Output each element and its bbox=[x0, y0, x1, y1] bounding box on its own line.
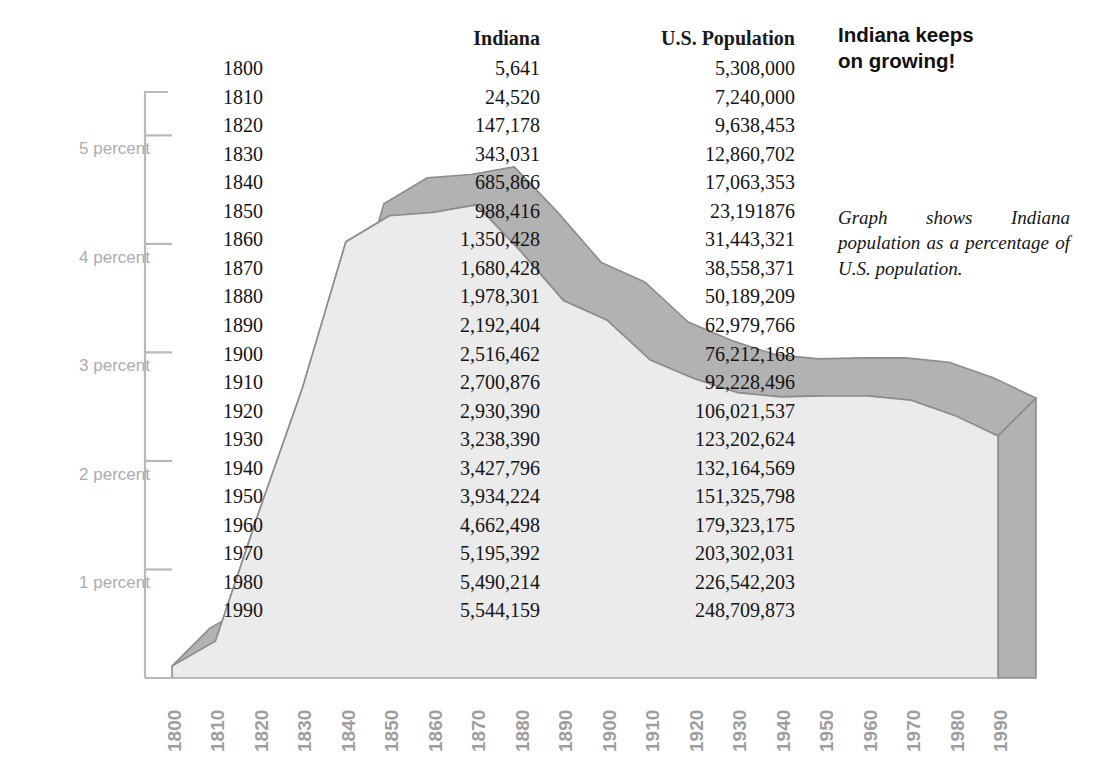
cell-us-population: 23,191876 bbox=[560, 200, 795, 223]
cell-year: 1940 bbox=[180, 457, 306, 480]
cell-indiana-population: 3,427,796 bbox=[290, 457, 540, 480]
x-axis-label-1990: 1990 bbox=[990, 710, 1012, 752]
cell-us-population: 17,063,353 bbox=[560, 171, 795, 194]
table-row: 19002,516,46276,212,168 bbox=[0, 343, 1114, 371]
cell-year: 1830 bbox=[180, 143, 306, 166]
table-row: 1840685,86617,063,353 bbox=[0, 171, 1114, 199]
cell-us-population: 62,979,766 bbox=[560, 314, 795, 337]
table-row: 19202,930,390106,021,537 bbox=[0, 400, 1114, 428]
table-row: 18902,192,40462,979,766 bbox=[0, 314, 1114, 342]
cell-us-population: 151,325,798 bbox=[560, 485, 795, 508]
x-axis-label-1860: 1860 bbox=[425, 710, 447, 752]
cell-year: 1920 bbox=[180, 400, 306, 423]
cell-us-population: 92,228,496 bbox=[560, 371, 795, 394]
cell-indiana-population: 1,680,428 bbox=[290, 257, 540, 280]
cell-us-population: 248,709,873 bbox=[560, 599, 795, 622]
table-row: 181024,5207,240,000 bbox=[0, 86, 1114, 114]
cell-us-population: 38,558,371 bbox=[560, 257, 795, 280]
x-axis-label-1830: 1830 bbox=[294, 710, 316, 752]
table-row: 18801,978,30150,189,209 bbox=[0, 285, 1114, 313]
cell-us-population: 31,443,321 bbox=[560, 228, 795, 251]
x-axis-label-1920: 1920 bbox=[686, 710, 708, 752]
cell-year: 1840 bbox=[180, 171, 306, 194]
cell-indiana-population: 5,641 bbox=[290, 57, 540, 80]
cell-indiana-population: 2,192,404 bbox=[290, 314, 540, 337]
x-axis-label-1800: 1800 bbox=[164, 710, 186, 752]
cell-indiana-population: 2,516,462 bbox=[290, 343, 540, 366]
cell-year: 1930 bbox=[180, 428, 306, 451]
table-row: 1820147,1789,638,453 bbox=[0, 114, 1114, 142]
table-row: 19303,238,390123,202,624 bbox=[0, 428, 1114, 456]
cell-indiana-population: 24,520 bbox=[290, 86, 540, 109]
x-axis-label-1950: 1950 bbox=[816, 710, 838, 752]
cell-year: 1970 bbox=[180, 542, 306, 565]
x-axis-label-1890: 1890 bbox=[555, 710, 577, 752]
table-row: 19604,662,498179,323,175 bbox=[0, 514, 1114, 542]
cell-indiana-population: 3,934,224 bbox=[290, 485, 540, 508]
cell-indiana-population: 2,700,876 bbox=[290, 371, 540, 394]
headline-text: Indiana keepson growing! bbox=[838, 22, 1088, 74]
cell-us-population: 226,542,203 bbox=[560, 571, 795, 594]
cell-us-population: 50,189,209 bbox=[560, 285, 795, 308]
cell-us-population: 203,302,031 bbox=[560, 542, 795, 565]
cell-indiana-population: 5,544,159 bbox=[290, 599, 540, 622]
x-axis-label-1980: 1980 bbox=[947, 710, 969, 752]
table-row: 19705,195,392203,302,031 bbox=[0, 542, 1114, 570]
cell-year: 1800 bbox=[180, 57, 306, 80]
cell-us-population: 12,860,702 bbox=[560, 143, 795, 166]
cell-year: 1890 bbox=[180, 314, 306, 337]
cell-year: 1880 bbox=[180, 285, 306, 308]
x-axis-label-1850: 1850 bbox=[381, 710, 403, 752]
chart-figure: 1 percent2 percent3 percent4 percent5 pe… bbox=[0, 0, 1114, 760]
cell-indiana-population: 1,978,301 bbox=[290, 285, 540, 308]
x-axis-label-1930: 1930 bbox=[729, 710, 751, 752]
cell-us-population: 132,164,569 bbox=[560, 457, 795, 480]
x-axis-label-1910: 1910 bbox=[642, 710, 664, 752]
cell-indiana-population: 147,178 bbox=[290, 114, 540, 137]
cell-indiana-population: 5,195,392 bbox=[290, 542, 540, 565]
cell-indiana-population: 988,416 bbox=[290, 200, 540, 223]
cell-indiana-population: 685,866 bbox=[290, 171, 540, 194]
cell-us-population: 123,202,624 bbox=[560, 428, 795, 451]
cell-year: 1820 bbox=[180, 114, 306, 137]
cell-year: 1950 bbox=[180, 485, 306, 508]
table-row: 19905,544,159248,709,873 bbox=[0, 599, 1114, 627]
cell-year: 1870 bbox=[180, 257, 306, 280]
cell-us-population: 9,638,453 bbox=[560, 114, 795, 137]
cell-year: 1810 bbox=[180, 86, 306, 109]
caption-note: Graph shows Indiana population as a perc… bbox=[838, 205, 1070, 281]
column-header-indiana: Indiana bbox=[290, 27, 540, 50]
x-axis-label-1900: 1900 bbox=[599, 710, 621, 752]
cell-year: 1910 bbox=[180, 371, 306, 394]
cell-us-population: 179,323,175 bbox=[560, 514, 795, 537]
table-row: 1830343,03112,860,702 bbox=[0, 143, 1114, 171]
cell-year: 1980 bbox=[180, 571, 306, 594]
cell-year: 1860 bbox=[180, 228, 306, 251]
x-axis-label-1960: 1960 bbox=[860, 710, 882, 752]
x-axis-label-1880: 1880 bbox=[512, 710, 534, 752]
x-axis-label-1840: 1840 bbox=[338, 710, 360, 752]
table-row: 19403,427,796132,164,569 bbox=[0, 457, 1114, 485]
cell-indiana-population: 3,238,390 bbox=[290, 428, 540, 451]
cell-indiana-population: 4,662,498 bbox=[290, 514, 540, 537]
x-axis-label-1970: 1970 bbox=[903, 710, 925, 752]
cell-year: 1990 bbox=[180, 599, 306, 622]
x-axis-label-1810: 1810 bbox=[207, 710, 229, 752]
cell-indiana-population: 5,490,214 bbox=[290, 571, 540, 594]
x-axis-label-1820: 1820 bbox=[251, 710, 273, 752]
cell-us-population: 7,240,000 bbox=[560, 86, 795, 109]
table-row: 19102,700,87692,228,496 bbox=[0, 371, 1114, 399]
cell-us-population: 106,021,537 bbox=[560, 400, 795, 423]
cell-indiana-population: 2,930,390 bbox=[290, 400, 540, 423]
x-axis-label-1870: 1870 bbox=[468, 710, 490, 752]
x-axis-label-1940: 1940 bbox=[773, 710, 795, 752]
cell-indiana-population: 343,031 bbox=[290, 143, 540, 166]
cell-year: 1900 bbox=[180, 343, 306, 366]
table-row: 19503,934,224151,325,798 bbox=[0, 485, 1114, 513]
cell-year: 1960 bbox=[180, 514, 306, 537]
cell-year: 1850 bbox=[180, 200, 306, 223]
cell-us-population: 5,308,000 bbox=[560, 57, 795, 80]
table-row: 19805,490,214226,542,203 bbox=[0, 571, 1114, 599]
column-header-us-population: U.S. Population bbox=[560, 27, 795, 50]
cell-us-population: 76,212,168 bbox=[560, 343, 795, 366]
